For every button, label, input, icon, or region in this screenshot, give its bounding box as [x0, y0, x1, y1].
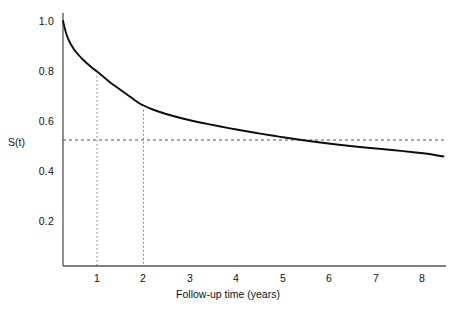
y-tick-label-0.6: 0.6 [28, 115, 54, 127]
y-tick-label-0.8: 0.8 [28, 65, 54, 77]
x-tick-label-8: 8 [410, 272, 434, 284]
x-tick-label-5: 5 [271, 272, 295, 284]
survival-curve-path [63, 21, 443, 157]
x-tick-label-1: 1 [85, 272, 109, 284]
x-tick-label-7: 7 [364, 272, 388, 284]
x-tick-label-6: 6 [317, 272, 341, 284]
x-axis-title: Follow-up time (years) [148, 288, 308, 300]
y-tick-label-0.4: 0.4 [28, 165, 54, 177]
y-tick-label-0.2: 0.2 [28, 215, 54, 227]
x-tick-label-2: 2 [131, 272, 155, 284]
survival-curve-figure: 1.0 0.8 0.6 0.4 0.2 S(t) 1 2 3 4 5 6 7 8… [0, 0, 456, 314]
x-tick-label-4: 4 [224, 272, 248, 284]
plot-canvas [0, 0, 456, 314]
y-tick-label-1.0: 1.0 [28, 15, 54, 27]
y-axis-title: S(t) [8, 136, 25, 148]
x-tick-label-3: 3 [178, 272, 202, 284]
